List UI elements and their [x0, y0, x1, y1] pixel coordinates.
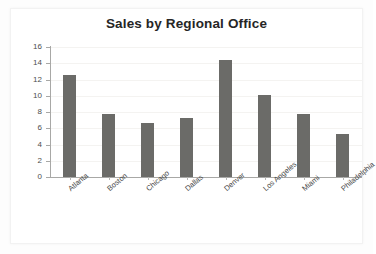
x-tick-mark [226, 177, 227, 180]
bar [219, 60, 232, 177]
y-tick-label: 6 [12, 124, 42, 132]
x-tick-mark [148, 177, 149, 180]
x-tick-mark [70, 177, 71, 180]
chart-title: Sales by Regional Office [0, 16, 373, 31]
bar [180, 118, 193, 177]
y-tick-label: 16 [12, 43, 42, 51]
x-tick-mark [265, 177, 266, 180]
bar [297, 114, 310, 177]
y-tick-label: 4 [12, 141, 42, 149]
y-tick-label: 2 [12, 157, 42, 165]
x-tick-mark [109, 177, 110, 180]
y-tick-label: 12 [12, 76, 42, 84]
bar [336, 134, 349, 177]
x-tick-mark [343, 177, 344, 180]
x-tick-mark [304, 177, 305, 180]
y-tick-label: 10 [12, 92, 42, 100]
bar [63, 75, 76, 177]
y-tick-label: 14 [12, 59, 42, 67]
plot-area [50, 47, 362, 177]
y-tick-label: 8 [12, 108, 42, 116]
bar [102, 114, 115, 177]
y-tick-mark [46, 177, 50, 178]
bar [141, 123, 154, 177]
y-tick-label: 0 [12, 173, 42, 181]
bar [258, 95, 271, 177]
x-tick-mark [187, 177, 188, 180]
